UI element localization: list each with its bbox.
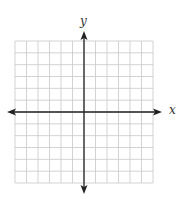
- coordinate-grid: [0, 0, 186, 199]
- x-axis-label: x: [169, 104, 176, 116]
- axes: [7, 31, 162, 194]
- y-axis-label: y: [80, 15, 87, 27]
- coordinate-plane: y x: [0, 0, 186, 199]
